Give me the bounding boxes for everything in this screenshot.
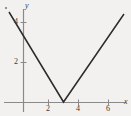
x-tick-label-2: 2: [46, 105, 50, 113]
x-axis-label: x: [124, 98, 128, 106]
y-tick-label-2: 2: [14, 58, 18, 66]
x-tick-label-6: 6: [106, 105, 110, 113]
figure-container: 2 4 6 2 4 y x: [0, 0, 131, 116]
x-tick-label-4: 4: [76, 105, 80, 113]
y-axis-label: y: [25, 2, 29, 10]
y-tick-label-4: 4: [14, 18, 18, 26]
abs-value-curve: [9, 12, 124, 102]
plot-area: [0, 0, 131, 116]
scan-speck-icon: [5, 7, 7, 9]
